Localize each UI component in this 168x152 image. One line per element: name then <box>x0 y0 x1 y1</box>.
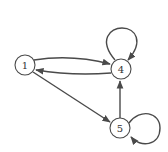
node-4-label: 4 <box>118 64 124 75</box>
node-5: 5 <box>110 118 130 138</box>
node-1-label: 1 <box>22 60 28 71</box>
edge-1-to-5 <box>33 72 110 122</box>
self-loop-5 <box>129 114 160 144</box>
edge-4-to-1 <box>36 70 111 74</box>
node-4: 4 <box>111 59 131 79</box>
self-loop-4 <box>107 28 137 60</box>
node-5-label: 5 <box>117 123 123 134</box>
graph-diagram: 1 4 5 <box>0 0 168 152</box>
node-1: 1 <box>15 55 35 75</box>
edge-1-to-4 <box>34 58 110 64</box>
